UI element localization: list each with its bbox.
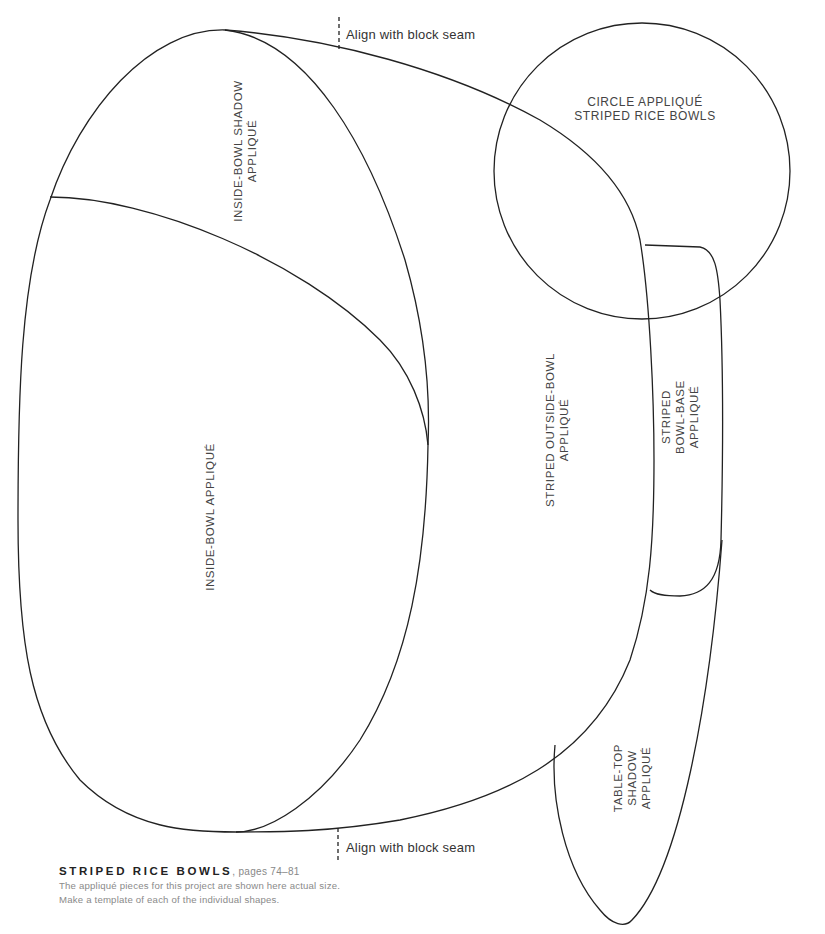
label-line: STRIPED OUTSIDE-BOWL (543, 350, 557, 510)
label-line: APPLIQUÉ (687, 377, 701, 457)
align-note-bottom: Align with block seam (346, 840, 475, 855)
label-line: INSIDE-BOWL SHADOW (231, 71, 245, 231)
label-line: APPLIQUÉ (639, 738, 653, 818)
outside-bowl-top (225, 30, 654, 832)
inside-shadow-divider (50, 197, 428, 445)
circle-applique-outline (494, 23, 790, 319)
table-top-shadow-outline (554, 540, 722, 924)
circle-applique-label: CIRCLE APPLIQUÉ STRIPED RICE BOWLS (570, 95, 720, 123)
align-note-top: Align with block seam (346, 27, 475, 42)
label-line: STRIPED (659, 377, 673, 457)
label-line: APPLIQUÉ (245, 71, 259, 231)
striped-outside-bowl-label: STRIPED OUTSIDE-BOWL APPLIQUÉ (543, 350, 571, 510)
label-line: CIRCLE APPLIQUÉ (570, 95, 720, 109)
striped-bowl-base-label: STRIPED BOWL-BASE APPLIQUÉ (659, 377, 701, 457)
table-top-shadow-label: TABLE-TOP SHADOW APPLIQUÉ (611, 738, 653, 818)
label-line: TABLE-TOP (611, 738, 625, 818)
label-line: SHADOW (625, 738, 639, 818)
caption-title: STRIPED RICE BOWLS (59, 865, 232, 877)
inside-bowl-shadow-label: INSIDE-BOWL SHADOW APPLIQUÉ (231, 71, 259, 231)
pattern-drawing (0, 0, 825, 934)
label-line: STRIPED RICE BOWLS (570, 109, 720, 123)
bowl-outer-outline (18, 30, 236, 832)
label-line: INSIDE-BOWL APPLIQUÉ (203, 437, 217, 597)
caption-line-2: Make a template of each of the individua… (59, 893, 340, 907)
caption-line-1: The appliqué pieces for this project are… (59, 879, 340, 893)
label-line: BOWL-BASE (673, 377, 687, 457)
caption: STRIPED RICE BOWLS, pages 74–81 The appl… (59, 861, 340, 907)
inside-bowl-label: INSIDE-BOWL APPLIQUÉ (203, 437, 217, 597)
caption-pages: , pages 74–81 (232, 866, 299, 877)
label-line: APPLIQUÉ (557, 350, 571, 510)
